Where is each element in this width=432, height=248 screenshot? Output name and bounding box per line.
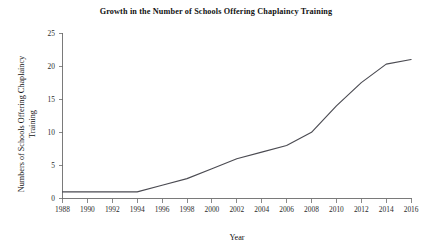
line-chart-plot: Numbers of Schools Offering Chaplaincy T… <box>0 0 432 248</box>
x-axis-title: Year <box>229 233 244 242</box>
y-tick-label-25: 25 <box>48 29 56 38</box>
x-tick-label-2006: 2006 <box>279 205 294 214</box>
x-axis-ticks: 1988 1990 1992 1994 1996 1998 2000 2002 … <box>55 199 419 215</box>
x-tick-label-2002: 2002 <box>229 205 244 214</box>
x-tick-label-1998: 1998 <box>180 205 195 214</box>
x-tick-label-1992: 1992 <box>105 205 120 214</box>
x-tick-label-1994: 1994 <box>130 205 145 214</box>
y-axis-title-line1: Numbers of Schools Offering Chaplaincy <box>17 55 26 192</box>
y-tick-label-0: 0 <box>51 194 55 203</box>
chart-figure: Growth in the Number of Schools Offering… <box>0 0 432 248</box>
y-tick-label-15: 15 <box>48 95 56 104</box>
data-series-line <box>63 59 412 191</box>
x-tick-label-2016: 2016 <box>404 205 419 214</box>
y-axis-title: Numbers of Schools Offering Chaplaincy T… <box>17 55 37 192</box>
x-tick-label-2008: 2008 <box>304 205 319 214</box>
x-tick-label-2012: 2012 <box>354 205 369 214</box>
x-tick-label-2000: 2000 <box>205 205 220 214</box>
x-tick-label-1988: 1988 <box>55 205 70 214</box>
x-tick-label-2010: 2010 <box>329 205 344 214</box>
y-axis-title-line2: Training <box>28 110 37 138</box>
x-tick-label-1990: 1990 <box>80 205 95 214</box>
y-tick-label-5: 5 <box>51 161 55 170</box>
y-axis-ticks: 25 20 15 10 5 0 <box>48 29 63 203</box>
y-tick-label-10: 10 <box>48 128 56 137</box>
x-tick-label-2004: 2004 <box>254 205 269 214</box>
x-tick-label-2014: 2014 <box>379 205 394 214</box>
x-tick-label-1996: 1996 <box>155 205 170 214</box>
y-tick-label-20: 20 <box>48 62 56 71</box>
